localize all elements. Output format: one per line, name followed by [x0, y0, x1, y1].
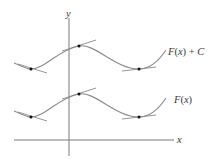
y-axis-label: y — [65, 8, 71, 19]
tangent-point — [138, 68, 141, 71]
tangent-point — [30, 68, 33, 71]
curve-F-plus-C — [14, 40, 166, 73]
curve-F — [14, 88, 166, 121]
curve-label-F: F(x) — [173, 94, 193, 106]
tangent-point — [78, 45, 81, 48]
curve-label-F-plus-C: F(x) + C — [167, 46, 205, 58]
tangent-point — [138, 116, 141, 119]
x-axis-label: x — [176, 134, 182, 145]
tangent-point — [78, 93, 81, 96]
antiderivative-diagram: y x F(x) + C F(x) — [0, 0, 223, 159]
tangent-point — [30, 116, 33, 119]
